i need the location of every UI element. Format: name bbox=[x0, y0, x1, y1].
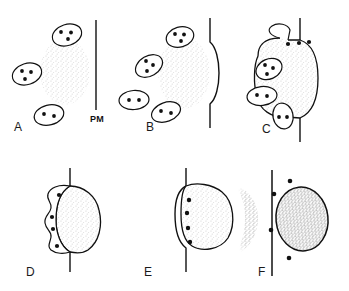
panel-e-dot-3 bbox=[186, 226, 190, 230]
panel-f-dot-1 bbox=[288, 179, 293, 184]
figure-panel-grid: PM A bbox=[0, 0, 349, 291]
panel-d-dot-3 bbox=[51, 227, 55, 231]
panel-d: D bbox=[26, 168, 101, 279]
panel-d-dot-2 bbox=[50, 215, 54, 219]
panel-e-dot-4 bbox=[188, 240, 192, 244]
panel-c-released-dot bbox=[307, 40, 311, 44]
panel-d-dot-4 bbox=[55, 244, 59, 248]
panel-e: E bbox=[144, 168, 233, 279]
panel-f-label: F bbox=[258, 265, 265, 279]
plasma-membrane-label: PM bbox=[90, 114, 104, 124]
panel-b-plasma-membrane bbox=[210, 18, 219, 128]
panel-e-label: E bbox=[144, 265, 152, 279]
panel-f-extruded-blob bbox=[273, 184, 331, 253]
panel-a-vesicle-3 bbox=[32, 102, 66, 129]
panel-f-dot-2 bbox=[272, 192, 277, 197]
panel-d-blob bbox=[56, 186, 101, 253]
panel-f: F bbox=[236, 170, 331, 279]
diagram-canvas: PM A bbox=[0, 0, 349, 291]
panel-c-dot-2 bbox=[297, 41, 301, 45]
panel-c-dot-1 bbox=[286, 42, 290, 46]
panel-b-vesicle-3 bbox=[118, 89, 149, 110]
panel-a-blob bbox=[40, 39, 90, 105]
panel-f-remnant bbox=[236, 186, 258, 254]
panel-e-blob bbox=[181, 184, 233, 249]
panel-e-dot-2 bbox=[185, 211, 189, 215]
panel-a-vesicle-2 bbox=[9, 59, 44, 88]
panel-d-label: D bbox=[26, 265, 35, 279]
panel-b-blob bbox=[158, 37, 210, 109]
panel-c-fused-vesicle bbox=[269, 24, 290, 40]
panel-b-label: B bbox=[146, 120, 154, 134]
panel-d-dot-1 bbox=[57, 193, 61, 197]
panel-a: PM A bbox=[9, 20, 103, 134]
panel-f-dot-3 bbox=[269, 228, 274, 233]
panel-c: C bbox=[246, 18, 318, 142]
panel-b: B bbox=[118, 18, 219, 134]
panel-c-label: C bbox=[262, 122, 271, 136]
panel-a-label: A bbox=[14, 120, 22, 134]
panel-f-dot-4 bbox=[287, 256, 292, 261]
panel-e-dot-1 bbox=[187, 198, 191, 202]
